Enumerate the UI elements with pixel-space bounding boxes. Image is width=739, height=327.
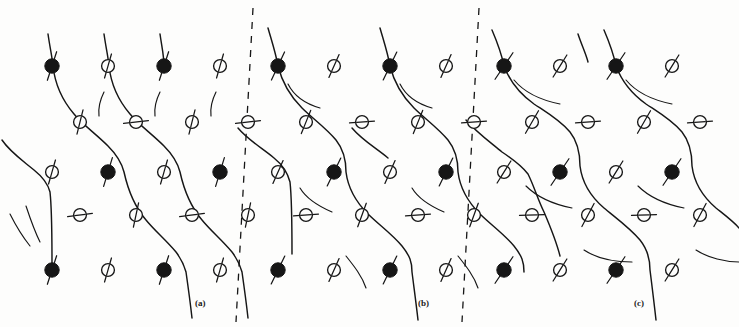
spin-bar-through-ring — [413, 215, 423, 216]
spin-bar-through-ring — [469, 122, 479, 123]
filled-site-marker — [665, 165, 679, 179]
spin-bar-through-ring — [301, 215, 311, 216]
filled-site-marker — [213, 165, 227, 179]
lattice-spin-figure: (a) (b) (c) — [0, 0, 739, 327]
spin-bar-through-ring — [357, 122, 367, 123]
lattice-diagram-canvas — [0, 0, 739, 327]
filled-site-marker — [383, 263, 397, 277]
filled-site-marker — [497, 263, 511, 277]
filled-site-marker — [383, 59, 397, 73]
spin-bar-through-ring — [583, 122, 593, 123]
spin-bar-through-ring — [695, 122, 705, 123]
filled-site-marker — [271, 263, 285, 277]
filled-site-marker — [45, 263, 59, 277]
filled-site-marker — [609, 59, 623, 73]
filled-site-marker — [271, 59, 285, 73]
filled-site-marker — [553, 165, 567, 179]
panel-label-b: (b) — [418, 298, 429, 308]
filled-site-marker — [157, 59, 171, 73]
filled-site-marker — [101, 165, 115, 179]
filled-site-marker — [497, 59, 511, 73]
panel-label-c: (c) — [634, 298, 644, 308]
filled-site-marker — [439, 165, 453, 179]
filled-site-marker — [327, 165, 341, 179]
filled-site-marker — [45, 59, 59, 73]
panel-label-a: (a) — [195, 298, 206, 308]
filled-site-marker — [157, 263, 171, 277]
filled-site-marker — [609, 263, 623, 277]
